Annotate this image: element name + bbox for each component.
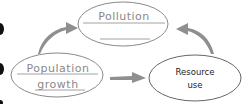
population-label-line2: growth — [18, 78, 98, 91]
population-label-line1: Population — [18, 62, 98, 75]
pollution-node-outline — [78, 2, 168, 46]
left-mark-middle — [0, 63, 4, 75]
left-mark-bottom — [0, 100, 3, 104]
pollution-label: Pollution — [88, 10, 160, 23]
left-mark-top — [0, 23, 4, 35]
arrow-population-to-resource — [110, 72, 146, 83]
resource-label-line1: Resource — [160, 66, 230, 78]
arrow-population-to-pollution — [38, 22, 78, 54]
resource-label-line2: use — [160, 79, 230, 91]
arrow-resource-to-pollution — [176, 23, 214, 54]
resource-use-node-outline — [149, 55, 241, 101]
